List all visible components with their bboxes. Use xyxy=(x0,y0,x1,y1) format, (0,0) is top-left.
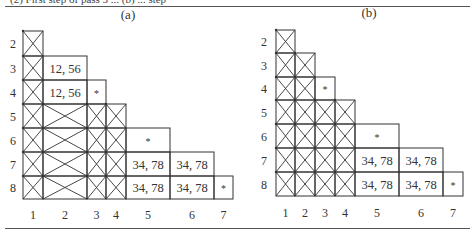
column-label: 7 xyxy=(221,208,227,222)
cell-value: 34, 78 xyxy=(132,181,163,195)
value-cell: 34, 78 xyxy=(170,176,214,199)
value-cell: 34, 78 xyxy=(355,148,399,172)
crossed-cell xyxy=(22,151,43,176)
value-cell: * xyxy=(355,124,399,148)
crossed-cell xyxy=(42,103,87,128)
crossed-cell xyxy=(105,151,126,176)
column-label: 3 xyxy=(94,208,100,222)
panel-title: (a) xyxy=(121,7,135,22)
value-cell: * xyxy=(214,176,233,199)
value-cell: 34, 78 xyxy=(170,152,214,176)
column-label: 5 xyxy=(374,206,380,220)
panel-b: (b)**34, 7834, 7834, 7834, 78*2345678123… xyxy=(261,5,463,220)
crossed-cell xyxy=(275,171,295,196)
column-label: 6 xyxy=(418,206,424,220)
crossed-cell xyxy=(294,52,315,77)
column-label: 4 xyxy=(342,206,348,220)
crossed-cell xyxy=(86,151,106,176)
crossed-cell xyxy=(334,147,355,172)
value-cell: 34, 78 xyxy=(399,148,443,172)
crossed-cell xyxy=(42,151,87,176)
value-cell: 12, 56 xyxy=(43,56,87,80)
crossed-cell xyxy=(294,99,315,124)
value-cell: 34, 78 xyxy=(126,176,170,199)
cell-value: 34, 78 xyxy=(405,154,436,168)
crossed-cell xyxy=(275,123,295,148)
value-cell: * xyxy=(87,80,106,104)
cell-value: * xyxy=(375,132,380,143)
column-label: 1 xyxy=(30,208,36,222)
row-label: 5 xyxy=(261,106,267,120)
row-label: 8 xyxy=(10,181,16,195)
column-label: 3 xyxy=(322,206,328,220)
crossed-cell xyxy=(42,175,87,199)
cell-value: 34, 78 xyxy=(176,158,207,172)
cell-value: * xyxy=(451,180,456,191)
cell-value: * xyxy=(146,136,151,147)
crossed-cell xyxy=(294,147,315,172)
value-cell: * xyxy=(126,128,170,152)
crossed-cell xyxy=(22,175,43,199)
crossed-cell xyxy=(22,55,43,80)
cell-value: 34, 78 xyxy=(361,178,392,192)
value-cell: * xyxy=(315,77,335,100)
crossed-cell xyxy=(275,147,295,172)
cell-value: * xyxy=(221,183,226,194)
column-label: 1 xyxy=(283,206,289,220)
crossed-cell xyxy=(294,171,315,196)
triangular-matrix-figure: (a)12, 5612, 56**34, 7834, 7834, 7834, 7… xyxy=(0,0,473,234)
crossed-cell xyxy=(86,175,106,199)
column-label: 2 xyxy=(62,208,68,222)
crossed-cell xyxy=(334,171,355,196)
row-label: 4 xyxy=(10,86,16,100)
crossed-cell xyxy=(294,76,315,100)
value-cell: * xyxy=(443,172,463,196)
row-label: 8 xyxy=(261,178,267,192)
value-cell: 34, 78 xyxy=(399,172,443,196)
row-label: 5 xyxy=(10,110,16,124)
row-label: 6 xyxy=(261,130,267,144)
crossed-cell xyxy=(22,103,43,128)
crossed-cell xyxy=(275,29,295,53)
column-label: 7 xyxy=(450,206,456,220)
cell-value: * xyxy=(323,84,328,95)
cell-value: 34, 78 xyxy=(405,178,436,192)
crossed-cell xyxy=(294,123,315,148)
value-cell: 12, 56 xyxy=(43,80,87,104)
row-label: 2 xyxy=(261,35,267,49)
crossed-cell xyxy=(314,147,335,172)
crossed-cell xyxy=(105,127,126,152)
row-label: 7 xyxy=(10,158,16,172)
panel-a: (a)12, 5612, 56**34, 7834, 7834, 7834, 7… xyxy=(10,7,233,222)
crossed-cell xyxy=(22,79,43,104)
row-label: 3 xyxy=(10,62,16,76)
cell-value: * xyxy=(94,88,99,99)
crossed-cell xyxy=(42,127,87,152)
crossed-cell xyxy=(275,76,295,100)
crossed-cell xyxy=(22,30,43,56)
crossed-cell xyxy=(314,123,335,148)
cell-value: 34, 78 xyxy=(176,181,207,195)
cell-value: 12, 56 xyxy=(49,86,80,100)
crossed-cell xyxy=(105,175,126,199)
cell-value: 34, 78 xyxy=(361,154,392,168)
crossed-cell xyxy=(275,52,295,77)
column-label: 6 xyxy=(189,208,195,222)
value-cell: 34, 78 xyxy=(355,172,399,196)
crossed-cell xyxy=(334,123,355,148)
value-cell: 34, 78 xyxy=(126,152,170,176)
row-label: 2 xyxy=(10,37,16,51)
row-label: 6 xyxy=(10,134,16,148)
row-label: 7 xyxy=(261,154,267,168)
column-label: 4 xyxy=(113,208,119,222)
crossed-cell xyxy=(334,99,355,124)
crossed-cell xyxy=(314,99,335,124)
crossed-cell xyxy=(86,103,106,128)
crossed-cell xyxy=(314,171,335,196)
row-label: 3 xyxy=(261,59,267,73)
crossed-cell xyxy=(22,127,43,152)
cell-value: 34, 78 xyxy=(132,158,163,172)
crossed-cell xyxy=(275,99,295,124)
column-label: 2 xyxy=(302,206,308,220)
row-label: 4 xyxy=(261,82,267,96)
